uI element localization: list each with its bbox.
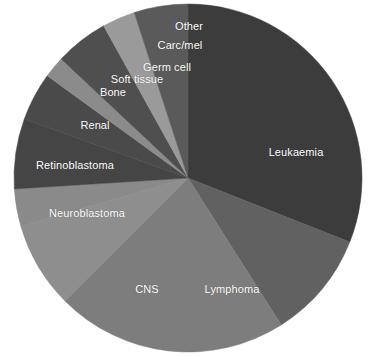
pie-slice-group (14, 4, 362, 352)
pie-chart-figure: LeukaemiaLymphomaCNSNeuroblastomaRetinob… (0, 0, 376, 356)
pie-chart-canvas (0, 0, 376, 356)
